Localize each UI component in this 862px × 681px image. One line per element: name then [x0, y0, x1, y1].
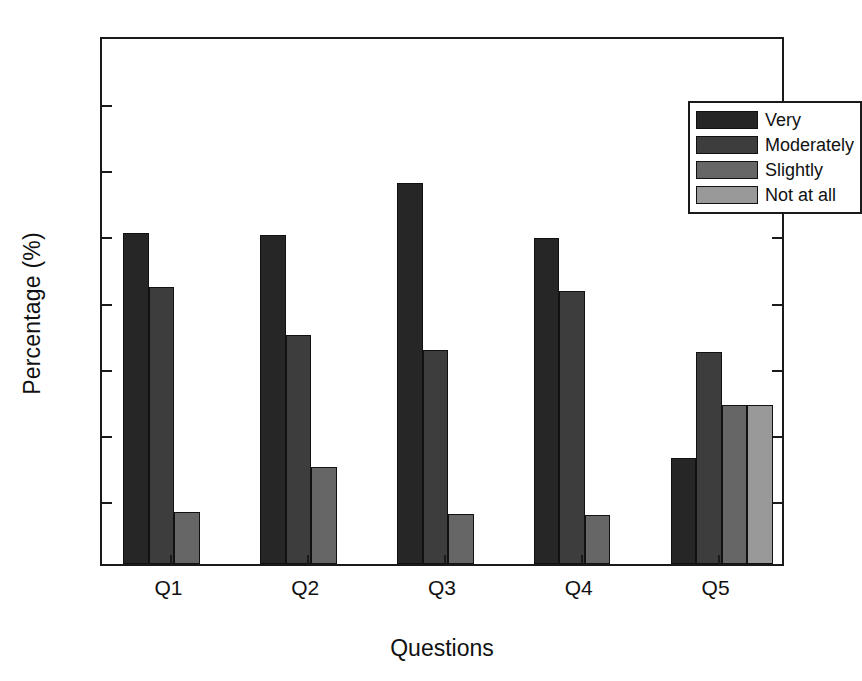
- legend-swatch-icon: [696, 161, 758, 179]
- y-tick-right: [772, 370, 782, 372]
- bar: [260, 235, 286, 564]
- x-tick: [718, 555, 720, 564]
- bar: [747, 405, 773, 564]
- bar: [534, 238, 560, 564]
- bar: [696, 352, 722, 564]
- bar: [722, 405, 748, 564]
- y-tick-right: [772, 237, 782, 239]
- x-tick-label: Q2: [245, 576, 365, 600]
- y-tick: [102, 171, 112, 173]
- bar: [448, 514, 474, 564]
- legend-item[interactable]: Very: [696, 108, 854, 131]
- legend-label: Slightly: [765, 161, 823, 179]
- y-axis-label: Percentage (%): [19, 204, 46, 424]
- y-tick: [102, 436, 112, 438]
- legend-label: Moderately: [765, 136, 854, 154]
- y-tick: [102, 105, 112, 107]
- x-tick: [170, 555, 172, 564]
- x-tick: [307, 555, 309, 564]
- bar: [423, 350, 449, 564]
- y-tick-right: [772, 304, 782, 306]
- bar: [123, 233, 149, 564]
- bar: [671, 458, 697, 564]
- x-tick-label: Q4: [519, 576, 639, 600]
- bar: [149, 287, 175, 564]
- y-tick-right: [772, 502, 782, 504]
- x-tick-label: Q3: [382, 576, 502, 600]
- bar: [585, 515, 611, 564]
- y-tick-right: [772, 436, 782, 438]
- bar: [174, 512, 200, 564]
- legend-swatch-icon: [696, 136, 758, 154]
- y-tick: [102, 304, 112, 306]
- bar: [286, 335, 312, 564]
- plot-area: VeryModeratelySlightlyNot at all: [100, 37, 784, 566]
- y-tick: [102, 370, 112, 372]
- x-tick-label: Q1: [108, 576, 228, 600]
- x-tick: [444, 555, 446, 564]
- x-tick: [581, 555, 583, 564]
- legend-item[interactable]: Not at all: [696, 183, 854, 206]
- legend-swatch-icon: [696, 186, 758, 204]
- legend-item[interactable]: Moderately: [696, 133, 854, 156]
- x-tick-label: Q5: [656, 576, 776, 600]
- bar: [397, 183, 423, 564]
- legend-swatch-icon: [696, 111, 758, 129]
- legend-label: Very: [765, 111, 801, 129]
- bar: [311, 467, 337, 564]
- y-tick: [102, 237, 112, 239]
- legend-item[interactable]: Slightly: [696, 158, 854, 181]
- legend-label: Not at all: [765, 186, 836, 204]
- bar: [559, 291, 585, 564]
- legend: VeryModeratelySlightlyNot at all: [688, 101, 862, 214]
- x-axis-label: Questions: [100, 635, 784, 662]
- y-tick: [102, 502, 112, 504]
